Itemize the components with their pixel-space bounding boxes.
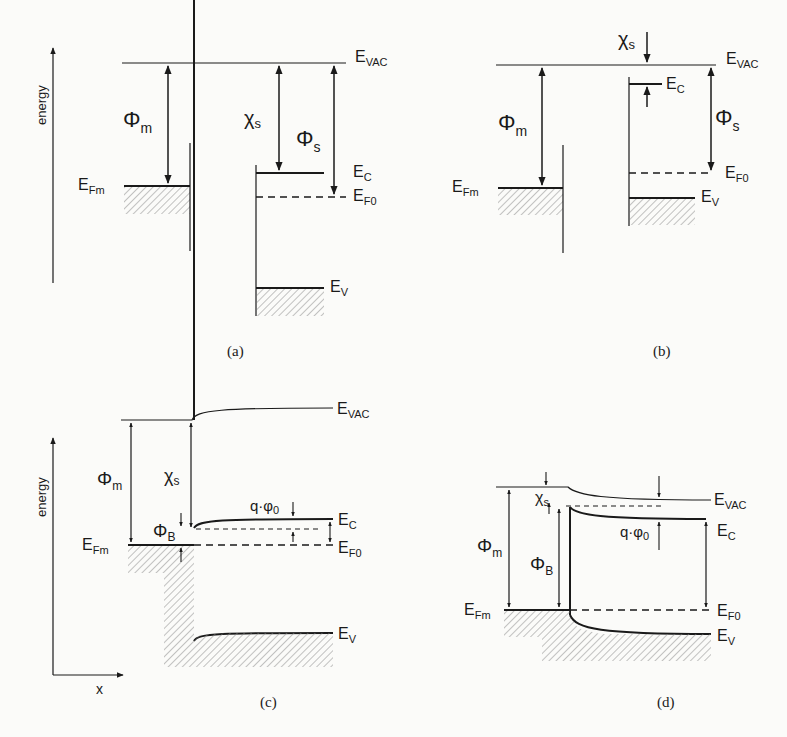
panel-a: energy EVAC EFm Φm χs Φs EC EF0 EV (a)	[34, 48, 388, 360]
evac-label: EVAC	[714, 491, 747, 511]
chi-s-label: χs	[164, 466, 179, 488]
x-axis-label: x	[96, 681, 103, 697]
caption-a: (a)	[227, 343, 244, 360]
ev-label: EV	[338, 625, 357, 645]
metal-filled-states	[124, 187, 190, 214]
ec-label: EC	[717, 522, 736, 542]
evac-curve	[496, 487, 711, 500]
panel-d: EVAC χs q·φ0 EC Φm ΦB EFm EF0 EV (d)	[464, 472, 747, 711]
q-phi0-label: q·φ0	[620, 523, 649, 542]
chi-s-label: χs	[244, 107, 262, 131]
chi-s-label: χs	[535, 489, 549, 508]
efm-label: EFm	[78, 176, 105, 196]
ev-curve	[570, 615, 711, 634]
caption-d: (d)	[657, 694, 675, 711]
valence-filled-states	[630, 199, 695, 225]
phi-m-label: Φm	[477, 535, 502, 560]
energy-axis-label: energy	[34, 85, 49, 125]
phi-s-label: Φs	[296, 126, 321, 155]
chi-s-label: χs	[618, 28, 636, 52]
ev-label: EV	[701, 188, 720, 208]
metal-filled-states	[498, 189, 563, 215]
energy-axis-label: energy	[34, 477, 49, 517]
phi-b-label: ΦB	[153, 521, 175, 544]
phi-m-label: Φm	[498, 110, 527, 139]
valence-filled-states	[194, 633, 333, 667]
ef0-label: EF0	[338, 539, 362, 559]
phi-m-label: Φm	[123, 107, 152, 136]
ev-label: EV	[330, 278, 349, 298]
phi-s-label: Φs	[715, 105, 740, 134]
ef0-label: EF0	[353, 187, 377, 207]
evac-label: EVAC	[337, 400, 370, 420]
ec-label: EC	[353, 163, 372, 183]
efm-label: EFm	[82, 536, 109, 556]
band-diagram-figure: energy EVAC EFm Φm χs Φs EC EF0 EV (a) E…	[0, 0, 787, 737]
metal-filled-states	[128, 546, 194, 667]
phi-b-label: ΦB	[530, 553, 553, 578]
valence-filled-states	[257, 289, 324, 316]
caption-b: (b)	[653, 343, 671, 360]
ev-label: EV	[717, 627, 736, 647]
ec-label: EC	[338, 511, 357, 531]
phi-m-label: Φm	[97, 468, 122, 493]
ef0-label: EF0	[717, 602, 741, 622]
ec-curve	[194, 519, 333, 528]
efm-label: EFm	[464, 601, 491, 621]
ec-label: EC	[666, 75, 685, 95]
panel-c: energy x EVAC EFm Φm χs ΦB q·φ0 EC EF0 E…	[34, 0, 370, 711]
evac-label: EVAC	[355, 48, 388, 68]
filled-states	[504, 611, 711, 661]
q-phi0-label: q·φ0	[250, 497, 279, 516]
panel-b: EVAC χs EFm Φm EC Φs EF0 EV (b)	[452, 28, 759, 360]
ec-curve	[570, 507, 706, 519]
evac-label: EVAC	[726, 50, 759, 70]
caption-c: (c)	[260, 694, 277, 711]
efm-label: EFm	[452, 178, 479, 198]
ef0-label: EF0	[725, 164, 749, 184]
evac-curve	[121, 408, 333, 420]
